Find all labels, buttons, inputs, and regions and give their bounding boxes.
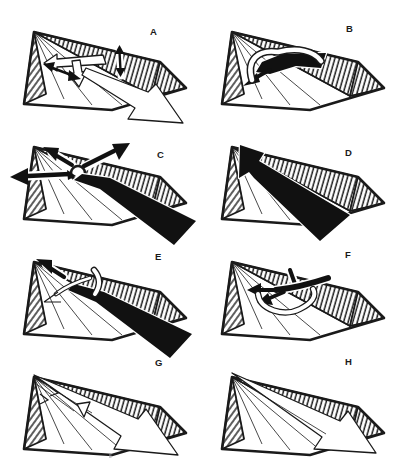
- panel-label-a: A: [150, 26, 157, 37]
- figure-page: A B C: [0, 0, 396, 465]
- panel-label-g: G: [155, 357, 163, 368]
- scan-artifact: [109, 454, 112, 458]
- panel-label-c: C: [157, 149, 164, 160]
- panel-label-e: E: [155, 251, 162, 262]
- half-graben-figure: A B C: [0, 0, 396, 465]
- panel-label-d: D: [345, 147, 352, 158]
- panel-label-f: F: [345, 249, 351, 260]
- panel-label-b: B: [346, 23, 353, 34]
- panel-label-h: H: [345, 356, 352, 367]
